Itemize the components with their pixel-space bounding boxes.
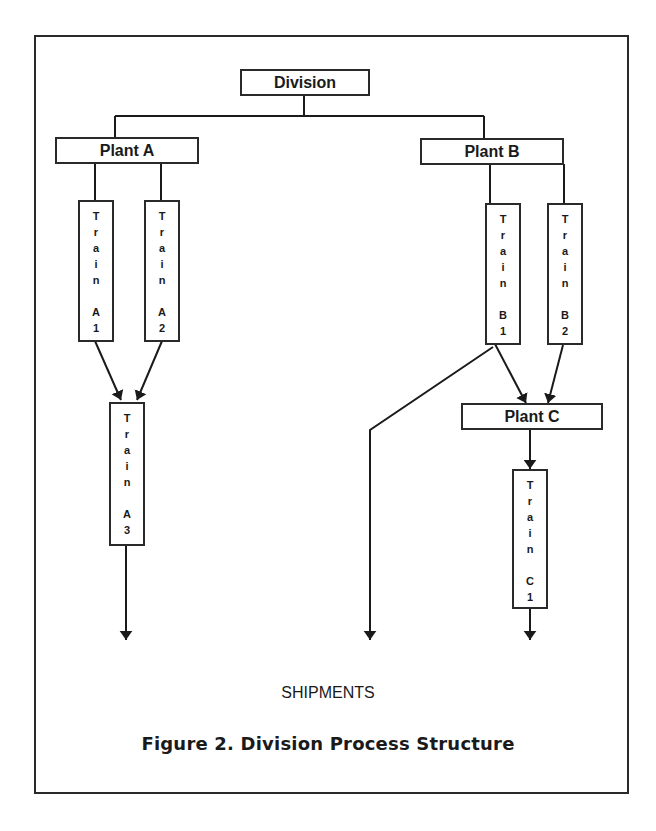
node-train-a1: T r a i n A 1 bbox=[78, 200, 114, 342]
node-letter: i bbox=[94, 256, 97, 272]
node-letter: n bbox=[527, 541, 534, 557]
node-letter: B bbox=[499, 307, 507, 323]
node-letter: a bbox=[527, 509, 533, 525]
node-letter: T bbox=[562, 211, 569, 227]
shipments-label: SHIPMENTS bbox=[0, 684, 656, 702]
node-letter: n bbox=[124, 474, 131, 490]
node-letter: 1 bbox=[500, 323, 506, 339]
node-letter: r bbox=[501, 227, 505, 243]
figure-caption: Figure 2. Division Process Structure bbox=[0, 733, 656, 754]
node-letter: a bbox=[500, 243, 506, 259]
node-letter: a bbox=[159, 240, 165, 256]
node-letter: i bbox=[528, 525, 531, 541]
node-letter: i bbox=[125, 458, 128, 474]
node-letter: i bbox=[160, 256, 163, 272]
node-letter: T bbox=[124, 410, 131, 426]
node-letter: 2 bbox=[562, 323, 568, 339]
node-letter: a bbox=[562, 243, 568, 259]
node-label: Plant B bbox=[464, 143, 519, 161]
node-letter: 1 bbox=[527, 589, 533, 605]
node-letter: T bbox=[159, 208, 166, 224]
node-letter: r bbox=[528, 493, 532, 509]
node-train-b1: T r a i n B 1 bbox=[485, 203, 521, 345]
node-letter: T bbox=[93, 208, 100, 224]
node-train-b2: T r a i n B 2 bbox=[547, 203, 583, 345]
node-letter: a bbox=[124, 442, 130, 458]
node-label: Plant C bbox=[504, 408, 559, 426]
node-letter: C bbox=[526, 573, 534, 589]
node-letter: r bbox=[125, 426, 129, 442]
node-letter: r bbox=[563, 227, 567, 243]
node-label: Plant A bbox=[100, 142, 155, 160]
node-letter: i bbox=[563, 259, 566, 275]
node-plant-c: Plant C bbox=[461, 403, 603, 430]
node-plant-b: Plant B bbox=[420, 138, 564, 165]
node-letter: A bbox=[123, 506, 131, 522]
node-label: Division bbox=[274, 74, 336, 92]
node-letter: n bbox=[500, 275, 507, 291]
node-letter: B bbox=[561, 307, 569, 323]
node-division: Division bbox=[240, 69, 370, 96]
node-letter: n bbox=[159, 272, 166, 288]
node-letter: T bbox=[527, 477, 534, 493]
node-letter: 2 bbox=[159, 320, 165, 336]
node-letter: A bbox=[158, 304, 166, 320]
node-train-a3: T r a i n A 3 bbox=[109, 402, 145, 546]
node-train-a2: T r a i n A 2 bbox=[144, 200, 180, 342]
node-letter: A bbox=[92, 304, 100, 320]
node-train-c1: T r a i n C 1 bbox=[512, 469, 548, 609]
node-plant-a: Plant A bbox=[55, 137, 199, 164]
node-letter: 1 bbox=[93, 320, 99, 336]
node-letter: r bbox=[160, 224, 164, 240]
node-letter: i bbox=[501, 259, 504, 275]
node-letter: n bbox=[93, 272, 100, 288]
node-letter: n bbox=[562, 275, 569, 291]
node-letter: r bbox=[94, 224, 98, 240]
node-letter: a bbox=[93, 240, 99, 256]
node-letter: T bbox=[500, 211, 507, 227]
node-letter: 3 bbox=[124, 522, 130, 538]
